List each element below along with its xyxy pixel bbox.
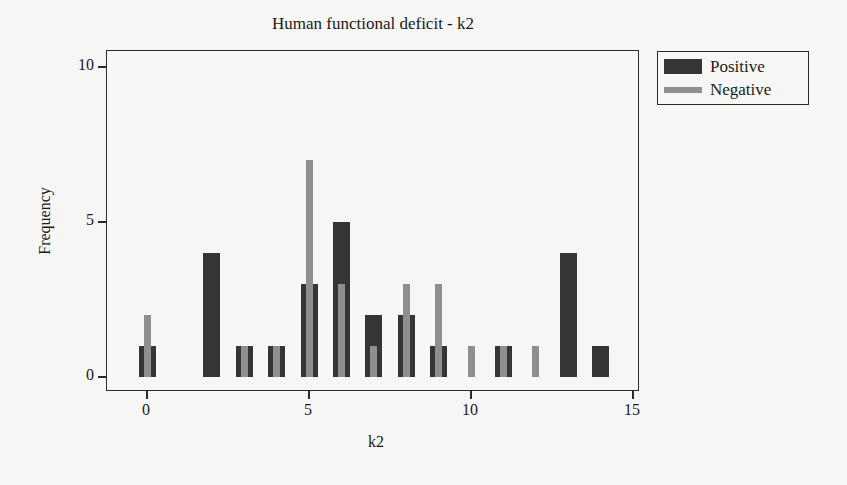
x-axis-label: k2: [346, 433, 406, 451]
bar-negative-11: [500, 346, 507, 377]
bar-negative-9: [435, 284, 442, 377]
x-tick: [146, 391, 148, 399]
legend-label-negative: Negative: [710, 80, 771, 100]
legend-label-positive: Positive: [710, 57, 765, 77]
bar-positive-2: [203, 253, 220, 377]
legend-swatch-positive: [664, 59, 702, 74]
x-tick-label: 15: [612, 401, 652, 419]
y-tick: [98, 66, 106, 68]
bar-negative-4: [273, 346, 280, 377]
x-tick-label: 5: [288, 401, 328, 419]
legend-item-negative: Negative: [664, 78, 802, 101]
plot-area: [106, 50, 639, 391]
x-tick: [308, 391, 310, 399]
bar-positive-14: [592, 346, 609, 377]
bar-negative-12: [532, 346, 539, 377]
legend-item-positive: Positive: [664, 55, 802, 78]
bar-negative-6: [338, 284, 345, 377]
x-tick: [470, 391, 472, 399]
x-tick-label: 10: [450, 401, 490, 419]
y-axis-label: Frequency: [36, 187, 54, 255]
chart-title: Human functional deficit - k2: [106, 14, 640, 34]
x-tick-label: 0: [126, 401, 166, 419]
bar-negative-8: [403, 284, 410, 377]
y-tick-label: 5: [64, 211, 94, 229]
bar-negative-10: [468, 346, 475, 377]
bar-positive-13: [560, 253, 577, 377]
bar-negative-0: [144, 315, 151, 377]
bar-negative-3: [241, 346, 248, 377]
bar-negative-7: [370, 346, 377, 377]
legend-swatch-negative: [664, 87, 702, 93]
y-tick: [98, 221, 106, 223]
y-tick: [98, 376, 106, 378]
x-tick: [632, 391, 634, 399]
y-tick-label: 0: [64, 366, 94, 384]
y-tick-label: 10: [64, 56, 94, 74]
legend: Positive Negative: [657, 51, 809, 105]
bar-negative-5: [306, 160, 313, 377]
